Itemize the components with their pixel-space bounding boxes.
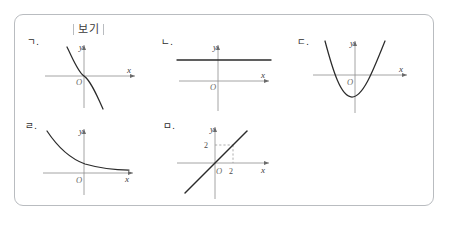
graph-d-x-label: x: [398, 64, 403, 74]
graph-m-y-label: y: [209, 124, 214, 134]
example-box-label: 보기: [74, 24, 103, 35]
graph-n-y-label: y: [212, 42, 217, 52]
graph-m-y-tick-2: 2: [204, 141, 208, 150]
graph-m-origin-label: O: [216, 166, 222, 176]
example-box-label-group: 보기: [71, 22, 106, 37]
graph-g-origin-label: O: [76, 77, 82, 87]
graph-m-plot: y x 2 O 2: [157, 115, 297, 203]
graph-r-origin-label: O: [76, 175, 82, 185]
graph-r: ㄹ. y x O: [19, 115, 154, 199]
graph-n-origin-label: O: [210, 82, 216, 92]
graph-n: ㄴ. y x O: [157, 33, 287, 113]
graph-m-x-tick-2: 2: [229, 167, 233, 176]
label-right-tick: [103, 24, 104, 35]
graph-g-x-label: x: [126, 65, 131, 75]
graph-m-x-label: x: [260, 165, 265, 175]
graph-r-y-label: y: [78, 126, 83, 136]
graph-r-x-label: x: [124, 174, 129, 184]
graph-d: ㄷ. y x O: [291, 27, 431, 117]
graph-r-plot: y x O: [19, 115, 154, 199]
graph-d-origin-label: O: [347, 77, 353, 87]
graph-d-plot: y x O: [291, 27, 431, 117]
graph-d-y-label: y: [349, 38, 354, 48]
graph-m: ㅁ. y x 2 O 2: [157, 115, 297, 203]
graph-g-plot: y x O: [23, 33, 153, 113]
graph-g-y-label: y: [78, 42, 83, 52]
graph-n-plot: y x O: [157, 33, 287, 113]
graph-n-x-label: x: [260, 70, 265, 80]
graph-g: ㄱ. y x O: [23, 33, 153, 113]
example-box: 보기 ㄱ. y x O ㄴ. y x: [14, 14, 434, 206]
